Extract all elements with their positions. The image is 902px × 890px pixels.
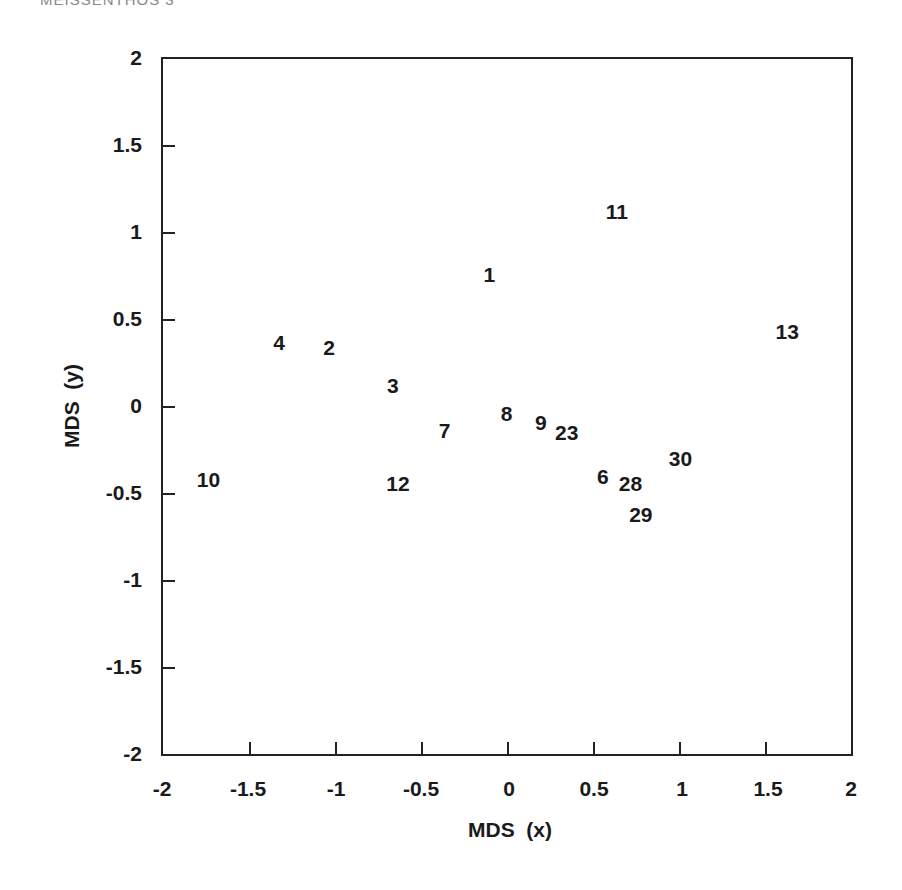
y-tick-mark — [163, 145, 175, 147]
data-point-label: 9 — [535, 411, 547, 432]
x-tick-label: -1.5 — [230, 777, 266, 801]
data-point-label: 11 — [606, 201, 628, 222]
y-tick-mark — [163, 232, 175, 234]
y-tick-label: -1 — [82, 568, 142, 592]
data-point-label: 23 — [555, 422, 578, 443]
y-axis-label: MDS (y) — [60, 364, 84, 448]
x-tick-label: 1 — [676, 777, 688, 801]
figure-caption — [90, 879, 870, 890]
data-point-label: 2 — [323, 336, 335, 357]
data-point-label: 1 — [483, 263, 495, 284]
y-tick-mark — [163, 319, 175, 321]
data-point-label: 30 — [669, 448, 692, 469]
y-tick-label: -0.5 — [82, 481, 142, 505]
data-point-label: 12 — [386, 472, 409, 493]
data-point-label: 3 — [387, 375, 399, 396]
x-tick-mark — [249, 742, 251, 754]
x-tick-mark — [335, 742, 337, 754]
data-point-label: 13 — [776, 321, 799, 342]
y-tick-mark — [163, 406, 175, 408]
y-tick-mark — [163, 493, 175, 495]
y-tick-label: 2 — [82, 46, 142, 70]
y-tick-label: 0.5 — [82, 307, 142, 331]
x-tick-label: 0.5 — [579, 777, 608, 801]
x-tick-mark — [593, 742, 595, 754]
x-tick-label: -2 — [153, 777, 172, 801]
y-tick-label: -1.5 — [82, 655, 142, 679]
x-tick-label: -0.5 — [403, 777, 439, 801]
x-tick-label: 2 — [845, 777, 857, 801]
x-tick-mark — [765, 742, 767, 754]
y-tick-label: 1 — [82, 220, 142, 244]
data-point-label: 28 — [619, 472, 642, 493]
data-point-label: 6 — [597, 465, 609, 486]
data-point-label: 7 — [439, 420, 451, 441]
y-tick-mark — [163, 667, 175, 669]
y-axis-ticks: 2 1.5 1 0.5 0 -0.5 -1 -1.5 -2 — [80, 0, 142, 890]
x-tick-label: -1 — [327, 777, 346, 801]
x-tick-label: 0 — [503, 777, 515, 801]
y-tick-label: 1.5 — [82, 133, 142, 157]
x-axis-label: MDS (x) — [468, 818, 552, 842]
x-tick-mark — [507, 742, 509, 754]
data-point-label: 29 — [629, 503, 652, 524]
x-tick-mark — [679, 742, 681, 754]
data-point-label: 4 — [273, 331, 285, 352]
data-point-label: 10 — [197, 469, 220, 490]
x-tick-label: 1.5 — [753, 777, 782, 801]
data-point-label: 8 — [501, 402, 513, 423]
y-tick-label: -2 — [82, 742, 142, 766]
y-tick-mark — [163, 580, 175, 582]
x-tick-mark — [421, 742, 423, 754]
y-tick-label: 0 — [82, 394, 142, 418]
